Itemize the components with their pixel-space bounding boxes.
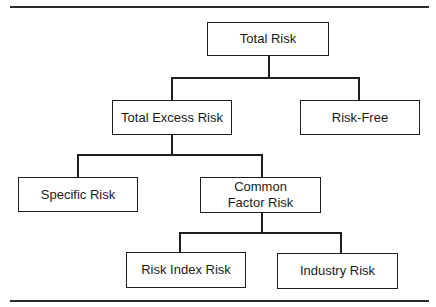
node-specific-risk: Specific Risk xyxy=(18,177,138,212)
node-label: Total Excess Risk xyxy=(121,110,223,126)
connector xyxy=(268,56,270,77)
node-label: Common Factor Risk xyxy=(215,179,306,211)
connector xyxy=(171,135,173,154)
connector xyxy=(179,232,181,253)
connector xyxy=(77,154,79,177)
node-total-excess-risk: Total Excess Risk xyxy=(112,100,232,135)
node-label: Specific Risk xyxy=(41,187,115,203)
connector xyxy=(77,154,263,156)
connector xyxy=(340,232,342,253)
connector xyxy=(179,232,342,234)
connector xyxy=(261,213,263,232)
node-risk-free: Risk-Free xyxy=(300,100,420,135)
node-label: Total Risk xyxy=(240,31,296,47)
node-label: Industry Risk xyxy=(300,263,375,279)
node-total-risk: Total Risk xyxy=(207,22,329,56)
connector xyxy=(171,77,359,79)
connector xyxy=(358,77,360,100)
connector xyxy=(171,77,173,100)
connector xyxy=(261,154,263,177)
bottom-rule xyxy=(10,300,429,302)
node-label: Risk-Free xyxy=(332,110,388,126)
node-industry-risk: Industry Risk xyxy=(277,253,398,289)
node-common-factor-risk: Common Factor Risk xyxy=(200,177,321,213)
node-risk-index-risk: Risk Index Risk xyxy=(126,252,246,288)
top-rule xyxy=(10,6,429,8)
node-label: Risk Index Risk xyxy=(141,262,231,278)
